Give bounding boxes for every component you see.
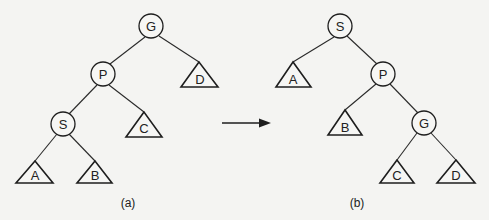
edge-g-d [159, 36, 199, 62]
node-label: P [379, 67, 388, 82]
subtree-label: A [289, 72, 298, 87]
node-p: P [91, 62, 115, 86]
node-label: G [146, 19, 156, 34]
node-label: S [59, 117, 68, 132]
transform-arrow [222, 119, 271, 128]
subtree-label: D [451, 168, 460, 183]
node-label: G [419, 116, 429, 131]
subtree-d: D [437, 160, 475, 183]
arrow-right-icon [259, 119, 271, 128]
edge-p-s [69, 85, 97, 114]
subtree-b: B [328, 110, 362, 135]
diagram-canvas: G D P S C A B (a) [0, 0, 489, 220]
subtree-label: B [341, 120, 350, 135]
subtree-d: D [181, 62, 218, 87]
subtree-label: C [139, 121, 148, 136]
edge-g-p [110, 37, 145, 64]
node-label: P [99, 67, 108, 82]
edge-s-a [293, 37, 334, 62]
edge-s-a [35, 134, 57, 161]
node-s: S [51, 112, 75, 136]
edge-p-g [390, 84, 418, 113]
subtree-b: B [77, 161, 112, 183]
subtree-c: C [380, 160, 414, 183]
edge-s-p [347, 36, 377, 64]
edge-p-c [109, 85, 144, 112]
node-g: G [412, 111, 436, 135]
subtree-c: C [126, 112, 162, 137]
subtree-label: B [91, 168, 100, 183]
edge-g-d [431, 133, 456, 160]
node-label: S [336, 19, 345, 34]
edge-g-c [397, 133, 417, 160]
subtree-label: D [195, 72, 204, 87]
node-p: P [371, 62, 395, 86]
subtree-label: C [392, 168, 401, 183]
rotation-diagram: G D P S C A B (a) [0, 0, 489, 220]
edge-p-b [345, 84, 376, 110]
panel-b: S A P B G C D (b) [276, 14, 475, 210]
panel-a: G D P S C A B (a) [16, 14, 218, 210]
edge-s-b [69, 134, 95, 161]
caption-b: (b) [350, 196, 365, 210]
subtree-a: A [276, 62, 311, 87]
node-g: G [139, 14, 163, 38]
subtree-a: A [16, 161, 53, 183]
node-s: S [328, 14, 352, 38]
caption-a: (a) [121, 196, 136, 210]
subtree-label: A [31, 168, 40, 183]
